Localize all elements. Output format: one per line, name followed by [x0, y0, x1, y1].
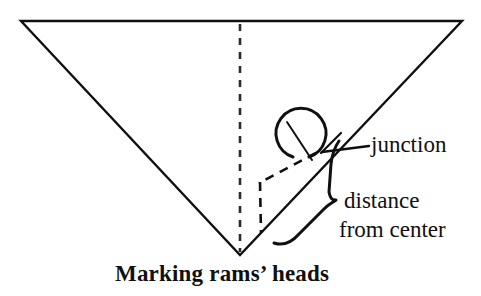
figure-container: junction distance from center Marking ra… — [0, 0, 481, 296]
distance-label-line2: from center — [339, 218, 446, 241]
offset-outline-vertical — [260, 182, 261, 233]
spiral-outer-arc — [276, 108, 326, 157]
figure-caption: Marking rams’ heads — [115, 262, 329, 285]
distance-brace — [274, 141, 339, 244]
distance-brace-path — [274, 141, 339, 244]
rams-head-spiral-icon — [276, 108, 326, 160]
offset-outline-dashed — [259, 153, 316, 233]
spiral-center-stroke — [287, 122, 312, 160]
offset-outline-diagonal — [259, 153, 316, 183]
junction-leader-path — [322, 146, 369, 152]
junction-label: junction — [371, 133, 446, 156]
distance-label-line1: distance — [344, 189, 419, 212]
